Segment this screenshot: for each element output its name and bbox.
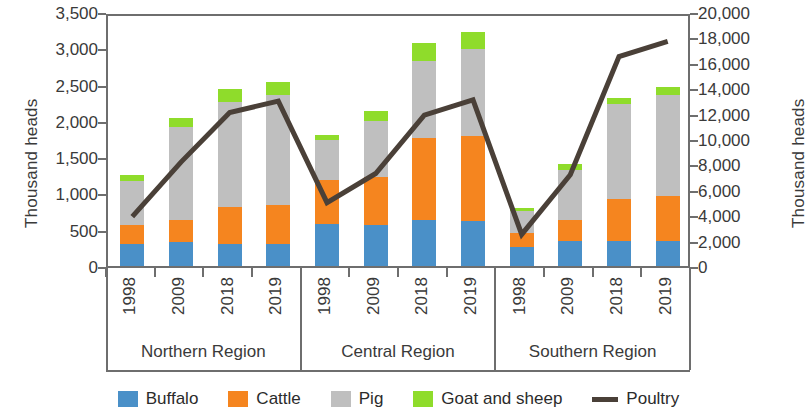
legend-label: Poultry <box>626 389 679 409</box>
x-axis-year-label: 2019 <box>656 274 676 318</box>
x-axis-tick-mark <box>543 268 545 277</box>
left-axis-tick-mark <box>98 231 106 233</box>
right-axis-tick-mark <box>690 64 698 66</box>
left-axis-tick-mark <box>98 86 106 88</box>
x-axis-year-label: 1998 <box>315 274 335 318</box>
x-axis-year-label: 2018 <box>218 274 238 318</box>
left-axis-tick-mark <box>98 194 106 196</box>
x-axis-year-label: 1998 <box>510 274 530 318</box>
right-axis-tick-label: 10,000 <box>698 131 750 151</box>
legend-label: Pig <box>359 389 384 409</box>
x-axis-tick-mark <box>251 268 253 277</box>
legend-item-poultry[interactable]: Poultry <box>592 389 679 409</box>
legend-label: Buffalo <box>146 389 199 409</box>
left-axis-tick-label: 0 <box>89 258 98 278</box>
legend-swatch-poultry-icon <box>592 397 618 402</box>
left-axis-tick-mark <box>98 49 106 51</box>
chart-legend: BuffaloCattlePigGoat and sheepPoultry <box>0 383 797 415</box>
x-axis-tick-mark <box>446 268 448 277</box>
x-axis-year-label: 2009 <box>169 274 189 318</box>
right-axis-tick-label: 4,000 <box>698 207 741 227</box>
x-axis-tick-mark <box>202 268 204 277</box>
x-band-edge <box>106 268 108 370</box>
legend-item-cattle[interactable]: Cattle <box>228 389 300 409</box>
legend-swatch-goat-and-sheep-icon <box>413 391 433 407</box>
left-axis-tick-label: 2,500 <box>55 77 98 97</box>
x-axis-tick-mark <box>154 268 156 277</box>
left-axis-tick-mark <box>98 267 106 269</box>
left-axis-tick-mark <box>98 158 106 160</box>
right-axis-tick-mark <box>690 13 698 15</box>
x-axis-tick-mark <box>640 268 642 277</box>
right-axis-tick-label: 8,000 <box>698 156 741 176</box>
left-axis-tick-label: 1,500 <box>55 149 98 169</box>
left-axis-tick-label: 3,000 <box>55 40 98 60</box>
right-axis-tick-mark <box>690 140 698 142</box>
x-axis-year-label: 2009 <box>558 274 578 318</box>
x-axis-year-label: 1998 <box>120 274 140 318</box>
x-axis-year-label: 2009 <box>364 274 384 318</box>
x-axis-year-label: 2019 <box>461 274 481 318</box>
left-axis-tick-label: 2,000 <box>55 113 98 133</box>
x-axis-tick-mark <box>592 268 594 277</box>
left-axis-tick-label: 500 <box>70 222 98 242</box>
x-axis-band: 1998200920182019Northern Region199820092… <box>106 268 690 372</box>
right-axis-tick-mark <box>690 267 698 269</box>
right-axis-tick-label: 6,000 <box>698 182 741 202</box>
legend-swatch-buffalo-icon <box>118 391 138 407</box>
legend-item-pig[interactable]: Pig <box>331 389 384 409</box>
right-axis-title: Thousand heads <box>789 99 809 228</box>
x-axis-tick-mark <box>397 268 399 277</box>
plot-area <box>106 14 690 268</box>
right-axis-tick-label: 16,000 <box>698 55 750 75</box>
x-axis-region-label: Southern Region <box>495 342 690 362</box>
right-axis-tick-mark <box>690 165 698 167</box>
x-axis-tick-mark <box>348 268 350 277</box>
left-axis-tick-label: 1,000 <box>55 185 98 205</box>
left-axis-tick-mark <box>98 122 106 124</box>
x-band-edge <box>689 268 691 370</box>
right-axis-tick-label: 14,000 <box>698 80 750 100</box>
legend-swatch-cattle-icon <box>228 391 248 407</box>
legend-swatch-pig-icon <box>331 391 351 407</box>
right-axis-tick-label: 20,000 <box>698 4 750 24</box>
x-axis-region-label: Northern Region <box>106 342 301 362</box>
right-axis-tick-mark <box>690 191 698 193</box>
region-separator <box>494 268 496 370</box>
left-axis-tick-mark <box>98 13 106 15</box>
left-axis-tick-label: 3,500 <box>55 4 98 24</box>
legend-label: Cattle <box>256 389 300 409</box>
poultry-line <box>132 41 667 234</box>
poultry-line-layer <box>108 16 692 270</box>
x-axis-year-label: 2018 <box>412 274 432 318</box>
x-axis-year-label: 2019 <box>266 274 286 318</box>
right-axis-tick-mark <box>690 89 698 91</box>
right-axis-tick-label: 12,000 <box>698 106 750 126</box>
right-axis-tick-mark <box>690 115 698 117</box>
right-axis-tick-mark <box>690 242 698 244</box>
right-axis-tick-mark <box>690 38 698 40</box>
x-axis-year-label: 2018 <box>607 274 627 318</box>
right-axis-tick-mark <box>690 216 698 218</box>
region-separator <box>300 268 302 370</box>
right-axis-tick-label: 18,000 <box>698 29 750 49</box>
legend-label: Goat and sheep <box>441 389 562 409</box>
right-axis-tick-label: 0 <box>698 258 707 278</box>
right-axis: 02,0004,0006,0008,00010,00012,00014,0001… <box>698 0 778 415</box>
legend-item-goat-and-sheep[interactable]: Goat and sheep <box>413 389 562 409</box>
right-axis-tick-label: 2,000 <box>698 233 741 253</box>
left-axis: 05001,0001,5002,0002,5003,0003,500 <box>0 0 98 415</box>
x-axis-region-label: Central Region <box>301 342 496 362</box>
legend-item-buffalo[interactable]: Buffalo <box>118 389 199 409</box>
